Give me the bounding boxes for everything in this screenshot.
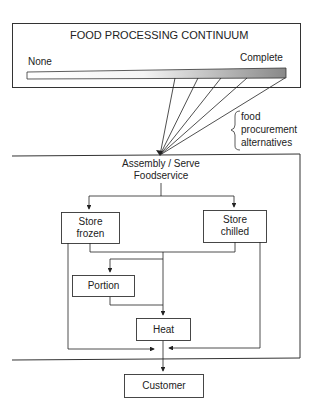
continuum-bar xyxy=(27,68,286,79)
brace-label-line3: alternatives xyxy=(241,137,292,149)
store-frozen-line1: Store xyxy=(61,216,120,228)
continuum-right-label: Complete xyxy=(240,52,283,64)
brace-label-line1: food xyxy=(241,111,260,123)
store-chilled-line1: Store xyxy=(203,214,267,226)
store-frozen-line2: frozen xyxy=(61,228,120,240)
store-chilled-line2: chilled xyxy=(203,226,267,238)
store-chilled-label: Store chilled xyxy=(203,214,267,238)
store-frozen-label: Store frozen xyxy=(61,216,120,240)
customer-label: Customer xyxy=(124,380,204,392)
continuum-title: FOOD PROCESSING CONTINUUM xyxy=(70,29,248,41)
system-title-line1: Assembly / Serve xyxy=(111,158,211,170)
brace-icon xyxy=(231,111,240,150)
continuum-left-label: None xyxy=(28,56,52,68)
brace-label-line2: procurement xyxy=(241,124,297,136)
heat-label: Heat xyxy=(136,324,191,336)
portion-label: Portion xyxy=(72,280,135,292)
system-title-line2: Foodservice xyxy=(111,170,211,182)
